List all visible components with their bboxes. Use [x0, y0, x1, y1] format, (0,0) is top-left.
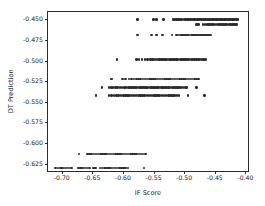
plot-area	[48, 12, 248, 171]
data-point	[110, 78, 113, 81]
data-point	[195, 86, 198, 89]
y-axis-tick	[45, 164, 48, 165]
data-point	[143, 167, 146, 170]
y-axis-tick-label: -0.600	[23, 140, 43, 146]
data-point	[210, 34, 213, 37]
x-axis-tick-label: -0.55	[146, 175, 162, 181]
y-axis-tick-label: -0.550	[23, 99, 43, 105]
y-axis-tick	[45, 81, 48, 82]
data-point	[78, 153, 81, 156]
data-point	[101, 86, 104, 89]
data-point	[70, 167, 73, 170]
data-point	[161, 34, 164, 37]
x-axis-tick-label: -0.65	[84, 175, 100, 181]
data-point	[235, 23, 238, 26]
y-axis-tick-label: -0.525	[23, 78, 43, 84]
x-axis-tick-label: -0.50	[176, 175, 192, 181]
data-point	[116, 58, 119, 61]
data-point	[155, 34, 158, 37]
data-point	[178, 94, 181, 97]
data-point	[88, 167, 91, 170]
data-point	[138, 58, 141, 61]
data-point	[141, 58, 144, 61]
data-point	[162, 18, 165, 21]
y-axis-tick-label: -0.575	[23, 119, 43, 125]
x-axis-tick-label: -0.45	[207, 175, 223, 181]
axes-frame: -0.450-0.475-0.500-0.525-0.550-0.575-0.6…	[47, 11, 249, 172]
y-axis-tick	[45, 19, 48, 20]
data-point	[204, 58, 207, 61]
data-point	[124, 78, 127, 81]
data-point	[144, 153, 147, 156]
y-axis-tick	[45, 122, 48, 123]
y-axis-tick	[45, 143, 48, 144]
data-point	[136, 18, 139, 21]
y-axis-tick-label: -0.450	[23, 16, 43, 22]
y-axis-tick	[45, 40, 48, 41]
y-axis-tick-label: -0.475	[23, 37, 43, 43]
data-point	[185, 86, 188, 89]
data-point	[94, 167, 97, 170]
y-axis-label-text: DT Prediction	[8, 70, 15, 114]
data-point	[127, 167, 130, 170]
y-axis-tick-label: -0.625	[23, 160, 43, 166]
data-point	[155, 18, 158, 21]
data-point	[203, 94, 206, 97]
x-axis-tick-label: -0.60	[115, 175, 131, 181]
y-axis-tick	[45, 61, 48, 62]
data-point	[237, 18, 240, 21]
data-point	[150, 34, 153, 37]
scatter-plot-figure: DT Prediction -0.450-0.475-0.500-0.525-0…	[0, 0, 265, 206]
x-axis-tick-label: -0.70	[54, 175, 70, 181]
y-axis-tick-label: -0.500	[23, 57, 43, 63]
data-point	[197, 78, 200, 81]
data-point	[95, 94, 98, 97]
data-point	[197, 23, 200, 26]
data-point	[136, 34, 139, 37]
x-axis-label: IF Score	[47, 190, 249, 197]
y-axis-label: DT Prediction	[6, 11, 16, 172]
data-point	[187, 94, 190, 97]
y-axis-tick	[45, 102, 48, 103]
x-axis-tick-label: -0.40	[237, 175, 253, 181]
data-point	[171, 34, 174, 37]
